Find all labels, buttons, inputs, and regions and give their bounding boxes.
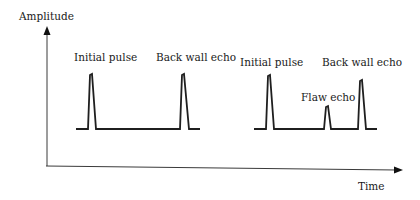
right-flaw-echo-label: Flaw echo (301, 91, 355, 103)
left-back-wall-echo-label: Back wall echo (156, 51, 236, 63)
left-trace-signal (76, 74, 200, 129)
x-axis (46, 166, 396, 170)
x-axis-arrow-icon (394, 167, 403, 174)
x-axis-label: Time (358, 180, 385, 192)
y-axis-label: Amplitude (18, 10, 74, 22)
right-initial-pulse-label: Initial pulse (240, 56, 303, 68)
right-back-wall-echo-label: Back wall echo (322, 56, 402, 68)
ultrasonic-a-scan-diagram: Amplitude Time Initial pulse Back wall e… (0, 0, 420, 200)
left-initial-pulse-label: Initial pulse (74, 51, 137, 63)
y-axis-arrow-icon (44, 26, 51, 35)
